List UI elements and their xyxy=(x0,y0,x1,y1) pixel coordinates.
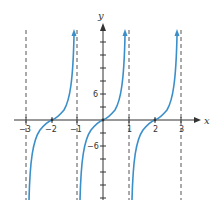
x-tick-label: 2 xyxy=(153,125,158,134)
x-tick-label: 1 xyxy=(127,125,132,134)
y-axis-label: y xyxy=(97,10,104,21)
arrow-up-icon xyxy=(72,29,77,36)
x-axis-label: x xyxy=(204,115,210,126)
curve-arrows xyxy=(72,29,180,36)
arrow-up-icon xyxy=(175,29,180,36)
x-tick-label: 3 xyxy=(179,125,184,134)
x-tick-label: −3 xyxy=(19,125,31,134)
y-axis-arrow-icon xyxy=(100,23,106,31)
y-tick-label: 6 xyxy=(93,90,98,99)
x-tick-label: −2 xyxy=(45,125,57,134)
x-tick-label: −1 xyxy=(70,125,82,134)
x-axis-arrow-icon xyxy=(194,117,201,123)
tangent-graph: y x −3 −2 −1 1 2 3 6 −6 xyxy=(0,0,218,200)
arrow-up-icon xyxy=(123,29,128,36)
y-tick-label: −6 xyxy=(87,142,99,151)
y-axis xyxy=(100,23,106,200)
